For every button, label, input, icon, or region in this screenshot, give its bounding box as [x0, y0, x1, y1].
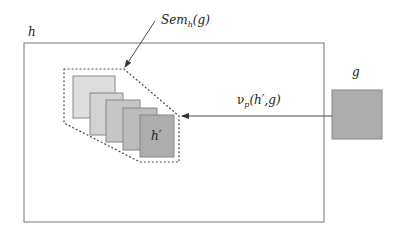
- label-nu: νp(h′,g): [237, 93, 281, 109]
- label-sem: Semh(g): [161, 13, 210, 29]
- label-g: g: [352, 65, 360, 79]
- label-h: h: [28, 25, 36, 39]
- sem-arrow: [125, 21, 155, 67]
- diagram-canvas: h h′ Semh(g) g νp(h′,g): [0, 0, 400, 236]
- group-element-g: [332, 90, 382, 139]
- label-h-prime: h′: [151, 129, 162, 143]
